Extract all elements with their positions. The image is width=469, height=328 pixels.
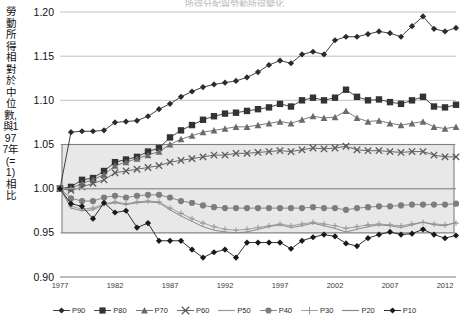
legend-item-p50[interactable]: P50 — [218, 305, 250, 316]
line-marker — [342, 305, 359, 316]
x-tick-label: 1977 — [40, 281, 80, 290]
chart-container: 所得分配與勞動所得變化 勞動所得相對於中位數,與1977年(=1)相比 1.20… — [0, 0, 469, 328]
triangle-marker — [136, 305, 153, 316]
y-tick-label: 1.00 — [20, 183, 54, 193]
legend-item-p80[interactable]: P80 — [94, 305, 126, 316]
legend-label: P40 — [279, 306, 292, 315]
legend-label: P50 — [237, 306, 250, 315]
chart-legend: P90P80P70P60P50P40P30P20P10 — [0, 305, 469, 316]
x-tick-label: 2007 — [370, 281, 410, 290]
legend-label: P80 — [113, 306, 126, 315]
y-tick-label: 1.15 — [20, 51, 54, 61]
legend-item-p20[interactable]: P20 — [342, 305, 374, 316]
plus-marker — [301, 305, 318, 316]
y-tick-label: 1.10 — [20, 95, 54, 105]
y-tick-label: 0.90 — [20, 272, 54, 282]
legend-item-p10[interactable]: P10 — [384, 305, 416, 316]
legend-item-p40[interactable]: P40 — [260, 305, 292, 316]
legend-item-p90[interactable]: P90 — [53, 305, 85, 316]
legend-label: P60 — [196, 306, 209, 315]
x-tick-label: 1992 — [205, 281, 245, 290]
x-tick-label: 1982 — [95, 281, 135, 290]
y-tick-label: 1.05 — [20, 139, 54, 149]
line-marker — [218, 305, 235, 316]
x-tick-label: 1987 — [150, 281, 190, 290]
plot-area — [0, 0, 469, 328]
legend-label: P90 — [72, 306, 85, 315]
legend-item-p60[interactable]: P60 — [177, 305, 209, 316]
y-tick-label: 0.95 — [20, 227, 54, 237]
circle-marker — [260, 305, 277, 316]
legend-item-p30[interactable]: P30 — [301, 305, 333, 316]
cross-x-marker — [177, 305, 194, 316]
legend-label: P10 — [403, 306, 416, 315]
diamond-marker — [53, 305, 70, 316]
square-marker — [94, 305, 111, 316]
legend-label: P20 — [361, 306, 374, 315]
x-tick-label: 1997 — [260, 281, 300, 290]
legend-label: P30 — [320, 306, 333, 315]
x-tick-label: 2002 — [315, 281, 355, 290]
legend-item-p70[interactable]: P70 — [136, 305, 168, 316]
y-tick-label: 1.20 — [20, 7, 54, 17]
legend-label: P70 — [155, 306, 168, 315]
diamond-marker — [384, 305, 401, 316]
x-tick-label: 2012 — [425, 281, 465, 290]
